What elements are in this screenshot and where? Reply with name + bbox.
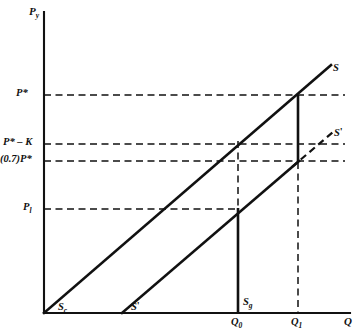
price-dash-lines xyxy=(44,95,345,209)
curve-label-s-prime-top-text: S xyxy=(334,127,340,138)
y-tick-label-p-star: P* xyxy=(16,88,28,99)
curve-label-s: S xyxy=(333,63,339,74)
curve-label-sg-text: S xyxy=(243,296,249,307)
y-tick-label-p-star-minus-k: P* – K xyxy=(3,137,32,148)
curve-label-s-prime-top-mark: ' xyxy=(340,126,343,137)
curve-label-sc: Sc xyxy=(58,302,67,313)
curve-label-sg-subscript: g xyxy=(249,301,253,310)
x-tick-q1-text: Q xyxy=(291,316,299,327)
y-tick-p-l-subscript: l xyxy=(29,206,31,215)
supply-curve-s-prime-solid xyxy=(122,161,299,313)
curve-label-s-prime-bottom-mark: ' xyxy=(137,300,140,311)
x-axis-label: Q xyxy=(344,316,352,327)
curve-label-s-prime-bottom-text: S xyxy=(131,301,137,312)
curve-label-s-prime-bottom: S' xyxy=(131,302,140,313)
x-tick-q1-subscript: 1 xyxy=(299,321,303,330)
y-axis-label: Py xyxy=(29,6,39,17)
plot-canvas xyxy=(0,0,358,333)
curve-label-s-prime-top: S' xyxy=(334,128,343,139)
x-tick-q0-text: Q xyxy=(231,316,239,327)
supply-diagram-figure: Py Q P* P* – K (0.7)P* Pl Q0 Q1 Sc S S' … xyxy=(0,0,358,333)
x-tick-label-q1: Q1 xyxy=(291,317,302,328)
y-tick-label-zero-seven-p-star: (0.7)P* xyxy=(0,154,32,165)
supply-curve-sc-s xyxy=(44,65,331,313)
y-axis-label-text: P xyxy=(29,5,36,17)
curve-label-sg: Sg xyxy=(243,297,253,308)
curve-label-sc-subscript: c xyxy=(64,306,67,315)
y-axis-label-subscript: y xyxy=(36,11,39,20)
y-tick-label-p-l: Pl xyxy=(23,202,32,213)
axes-group xyxy=(44,12,350,313)
x-tick-q0-subscript: 0 xyxy=(239,321,243,330)
x-tick-label-q0: Q0 xyxy=(231,317,242,328)
curve-label-sc-text: S xyxy=(58,301,64,312)
